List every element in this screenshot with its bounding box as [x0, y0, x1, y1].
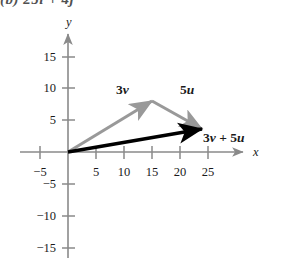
resultant-coefficient-1: 3	[203, 130, 210, 145]
x-tick-label-15: 15	[138, 166, 166, 179]
vector-label-3v-coefficient: 3	[116, 82, 123, 97]
y-tick-label-neg10: −10	[14, 210, 56, 223]
x-tick-label-5: 5	[82, 166, 110, 179]
x-axis-label: x	[253, 146, 259, 159]
resultant-plus-sign: +	[216, 130, 230, 145]
y-axis-label: y	[66, 16, 72, 29]
y-tick-label-15: 15	[22, 51, 56, 64]
y-tick-label-neg15: −15	[14, 242, 56, 255]
vector-label-5u: 5u	[180, 83, 194, 97]
x-tick-label-25: 25	[194, 166, 222, 179]
resultant-coefficient-2: 5	[230, 130, 237, 145]
vector-5u	[152, 101, 202, 129]
x-tick-label-neg5: −5	[26, 166, 54, 179]
resultant-symbol-u: u	[237, 130, 245, 145]
figure-canvas: (b) 25i + 4j	[0, 0, 285, 265]
vector-label-5u-symbol: u	[187, 82, 195, 97]
vector-label-resultant: 3v + 5u	[203, 131, 244, 145]
x-tick-label-20: 20	[166, 166, 194, 179]
vector-label-3v: 3v	[116, 83, 129, 97]
vector-label-5u-coefficient: 5	[180, 82, 187, 97]
vector-label-3v-symbol: v	[123, 82, 129, 97]
y-tick-label-10: 10	[22, 82, 56, 95]
y-tick-label-5: 5	[22, 114, 56, 127]
x-tick-label-10: 10	[110, 166, 138, 179]
y-tick-label-neg5: −5	[22, 178, 56, 191]
